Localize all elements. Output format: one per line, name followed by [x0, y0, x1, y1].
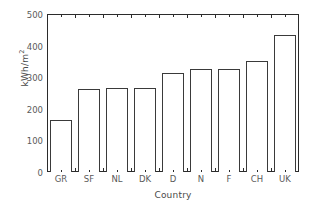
bar-UK	[274, 35, 296, 172]
x-tick-mark-top-8	[271, 14, 272, 18]
x-minor-tick-top-D	[173, 14, 174, 17]
x-tick-mark-top-5	[187, 14, 188, 18]
bar-DK	[134, 88, 156, 172]
x-minor-tick-UK	[285, 170, 286, 173]
x-tick-mark-4	[159, 168, 160, 172]
x-minor-tick-top-SF	[89, 14, 90, 17]
bar-NL	[106, 88, 128, 172]
x-tick-mark-top-1	[75, 14, 76, 18]
x-axis-title: Country	[47, 190, 299, 200]
x-minor-tick-DK	[145, 170, 146, 173]
x-tick-mark-top-2	[103, 14, 104, 18]
x-minor-tick-GR	[61, 170, 62, 173]
y-tick-label-400: 400	[11, 43, 43, 51]
x-minor-tick-top-NL	[117, 14, 118, 17]
bar-GR	[50, 120, 72, 172]
x-tick-mark-5	[187, 168, 188, 172]
y-tick-label-300: 300	[11, 74, 43, 82]
bar-CH	[246, 61, 268, 172]
x-minor-tick-SF	[89, 170, 90, 173]
y-tick-label-500: 500	[11, 11, 43, 19]
x-tick-mark-top-7	[243, 14, 244, 18]
y-tick-label-0: 0	[11, 169, 43, 177]
y-tick-label-200: 200	[11, 106, 43, 114]
x-tick-mark-3	[131, 168, 132, 172]
x-tick-mark-7	[243, 168, 244, 172]
x-minor-tick-top-UK	[285, 14, 286, 17]
x-tick-mark-top-6	[215, 14, 216, 18]
x-minor-tick-D	[173, 170, 174, 173]
x-tick-mark-top-4	[159, 14, 160, 18]
x-minor-tick-F	[229, 170, 230, 173]
x-minor-tick-top-CH	[257, 14, 258, 17]
x-tick-mark-6	[215, 168, 216, 172]
x-minor-tick-NL	[117, 170, 118, 173]
x-minor-tick-top-DK	[145, 14, 146, 17]
x-minor-tick-top-GR	[61, 14, 62, 17]
x-tick-mark-8	[271, 168, 272, 172]
bar-SF	[78, 89, 100, 172]
x-minor-tick-top-F	[229, 14, 230, 17]
x-minor-tick-CH	[257, 170, 258, 173]
x-tick-mark-top-3	[131, 14, 132, 18]
x-tick-mark-1	[75, 168, 76, 172]
bar-chart: kWh/m2 0 100 200 300 400 500	[0, 0, 315, 211]
bar-D	[162, 73, 184, 172]
bar-N	[190, 69, 212, 172]
y-tick-label-100: 100	[11, 137, 43, 145]
x-minor-tick-N	[201, 170, 202, 173]
x-tick-mark-2	[103, 168, 104, 172]
bar-F	[218, 69, 240, 172]
x-minor-tick-top-N	[201, 14, 202, 17]
x-tick-label-UK: UK	[265, 174, 305, 184]
